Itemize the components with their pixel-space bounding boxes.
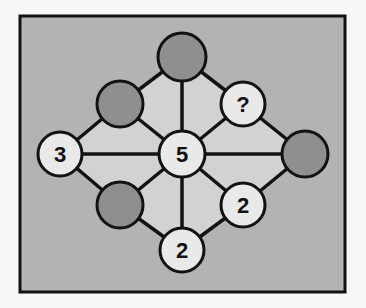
node-number-label: 2 — [237, 193, 249, 218]
node-number-label: 3 — [54, 142, 66, 167]
node-center: 5 — [159, 131, 205, 177]
filled-circle-right — [282, 131, 328, 177]
node-upper-right: ? — [221, 82, 265, 126]
node-right — [282, 131, 328, 177]
node-left: 3 — [38, 132, 82, 176]
node-lower-left — [97, 182, 143, 228]
puzzle-diagram: ?3522 — [0, 0, 366, 308]
filled-circle-lower-left — [97, 182, 143, 228]
filled-circle-top — [158, 33, 206, 81]
filled-circle-upper-left — [97, 81, 143, 127]
node-bottom: 2 — [160, 228, 204, 272]
node-lower-right: 2 — [221, 183, 265, 227]
question-mark-label: ? — [236, 92, 249, 117]
node-upper-left — [97, 81, 143, 127]
node-number-label: 2 — [176, 238, 188, 263]
node-number-label: 5 — [176, 142, 188, 167]
node-top — [158, 33, 206, 81]
